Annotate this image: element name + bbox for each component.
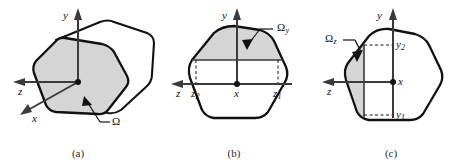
tick-label-x-origin: x: [398, 76, 403, 87]
panel-b: y z z2 x z1 Ωy (b): [156, 0, 312, 161]
region-label-omega-y: Ωy: [277, 22, 289, 35]
region-label-omega: Ω: [112, 116, 120, 127]
panel-c: y z y2 x y1 Ωz (c): [313, 0, 469, 161]
axis-label-z: z: [18, 86, 22, 97]
region-label-omega-z-base: Ω: [325, 32, 333, 44]
tick-label-x-origin: x: [234, 88, 239, 99]
panel-c-caption: (c): [313, 147, 469, 159]
axis-y-arrowhead: [74, 8, 82, 20]
axis-label-z: z: [176, 88, 180, 99]
panel-c-drawing: [313, 0, 469, 140]
tick-label-z2: z2: [191, 88, 199, 101]
origin-point: [75, 79, 81, 85]
tick-label-y2-sub: 2: [401, 43, 405, 52]
region-label-omega-z-sub: z: [333, 37, 336, 46]
tick-label-y1-sub: 1: [401, 113, 405, 122]
panel-a-caption: (a): [0, 147, 156, 159]
panel-a-drawing: [0, 0, 156, 140]
tick-label-z1-sub: 1: [277, 92, 281, 101]
panel-b-drawing: [156, 0, 312, 140]
tick-label-z1: z1: [273, 88, 281, 101]
axis-y-arrowhead: [389, 8, 397, 20]
axis-label-z: z: [327, 86, 331, 97]
axis-label-x: x: [32, 113, 37, 124]
panel-b-caption: (b): [156, 147, 312, 159]
figure-three-panel-cross-sections: y z x Ω (a): [0, 0, 470, 161]
tick-label-z2-sub: 2: [195, 92, 199, 101]
region-label-omega-y-sub: y: [285, 26, 289, 35]
axis-label-y: y: [63, 10, 68, 21]
panel-a: y z x Ω (a): [0, 0, 156, 161]
region-label-omega-z: Ωz: [325, 33, 337, 46]
axis-label-y: y: [222, 10, 227, 21]
axis-y-arrowhead: [233, 8, 241, 20]
origin-point: [390, 79, 396, 85]
region-label-omega-y-base: Ω: [277, 21, 285, 33]
tick-label-y1: y1: [396, 109, 405, 122]
axis-x-arrowhead: [20, 104, 32, 115]
axis-label-y: y: [377, 10, 382, 21]
tick-label-y2: y2: [396, 39, 405, 52]
